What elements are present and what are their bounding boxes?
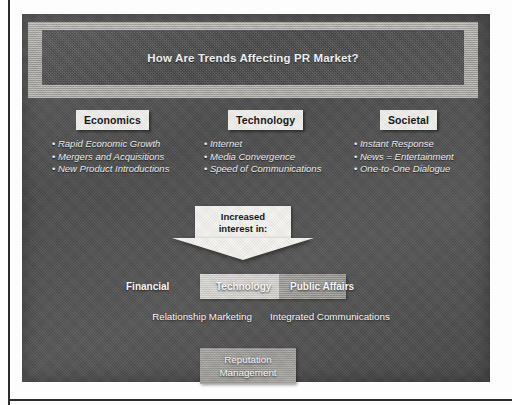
trend-bullets-economics: Rapid Economic Growth Mergers and Acquis… xyxy=(52,138,210,176)
scanned-slide-page: How Are Trends Affecting PR Market? Econ… xyxy=(0,0,512,405)
list-item: Speed of Communications xyxy=(204,163,362,176)
trend-columns: Economics Rapid Economic Growth Mergers … xyxy=(22,110,490,202)
outcome-row: Financial Technology Public Affairs xyxy=(22,274,490,300)
trend-column-heading-societal: Societal xyxy=(380,110,437,130)
outcome-row: Reputation Management xyxy=(22,348,490,386)
list-item: Instant Response xyxy=(354,138,487,151)
outcome-reputation-box: Reputation Management xyxy=(200,348,296,384)
list-item: Media Convergence xyxy=(204,151,362,164)
scan-edge-bottom-border xyxy=(8,399,512,401)
outcome-item-integrated-communications: Integrated Communications xyxy=(270,310,380,323)
slide-panel: How Are Trends Affecting PR Market? Econ… xyxy=(22,14,490,382)
slide-header-frame: How Are Trends Affecting PR Market? xyxy=(28,22,478,98)
down-arrow-icon: Increased interest in: xyxy=(172,206,314,264)
trend-column-economics: Economics Rapid Economic Growth Mergers … xyxy=(50,110,210,176)
trend-column-societal: Societal Instant Response News = Enterta… xyxy=(352,110,487,176)
arrow-label-line-2: interest in: xyxy=(219,223,268,235)
outcome-row: Relationship Marketing Integrated Commun… xyxy=(22,308,490,342)
list-item: News = Entertainment xyxy=(354,151,487,164)
outcome-areas: Financial Technology Public Affairs Rela… xyxy=(22,266,490,382)
trend-bullets-technology: Internet Media Convergence Speed of Comm… xyxy=(204,138,362,176)
list-item: Mergers and Acquisitions xyxy=(52,151,210,164)
trend-column-technology: Technology Internet Media Convergence Sp… xyxy=(202,110,362,176)
slide-header-inner: How Are Trends Affecting PR Market? xyxy=(42,30,464,85)
trend-column-heading-economics: Economics xyxy=(76,110,149,130)
page-title: How Are Trends Affecting PR Market? xyxy=(147,52,358,64)
outcome-item-relationship-marketing: Relationship Marketing xyxy=(152,310,252,323)
down-arrow-head xyxy=(172,238,314,260)
trend-bullets-societal: Instant Response News = Entertainment On… xyxy=(354,138,487,176)
list-item: Rapid Economic Growth xyxy=(52,138,210,151)
trend-column-heading-technology: Technology xyxy=(228,110,303,130)
outcome-item-public-affairs: Public Affairs xyxy=(290,280,354,293)
list-item: One-to-One Dialogue xyxy=(354,163,487,176)
list-item: Internet xyxy=(204,138,362,151)
outcome-item-reputation-management: Reputation Management xyxy=(200,353,296,379)
outcome-item-financial: Financial xyxy=(126,280,169,293)
scan-edge-left-border xyxy=(8,0,10,405)
arrow-label-line-1: Increased xyxy=(221,211,265,223)
outcome-item-technology: Technology xyxy=(216,280,271,293)
down-arrow-shaft: Increased interest in: xyxy=(195,206,291,239)
list-item: New Product Introductions xyxy=(52,163,210,176)
